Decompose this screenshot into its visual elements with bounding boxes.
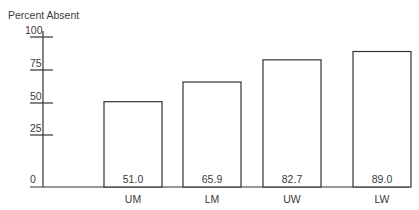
x-tick-label: UW — [283, 193, 301, 205]
bar-value-label: 89.0 — [372, 173, 393, 185]
bar-lw — [353, 52, 411, 187]
y-tick-label: 0 — [30, 173, 36, 185]
y-tick-label: 25 — [30, 122, 42, 134]
bar-value-label: 65.9 — [202, 173, 223, 185]
bar-value-label: 51.0 — [123, 173, 144, 185]
y-tick-label: 75 — [30, 57, 42, 69]
bar-lm — [183, 82, 241, 187]
y-axis-label: Percent Absent — [8, 9, 79, 21]
x-tick-label: UM — [125, 193, 141, 205]
bar-uw — [263, 60, 321, 187]
y-tick-label: 100 — [25, 24, 43, 36]
y-tick-label: 50 — [30, 90, 42, 102]
bar-chart: Percent Absent 0255075100 51.0UM65.9LM82… — [0, 0, 419, 210]
bar-value-label: 82.7 — [282, 173, 303, 185]
x-tick-label: LM — [205, 193, 220, 205]
x-tick-label: LW — [375, 193, 390, 205]
